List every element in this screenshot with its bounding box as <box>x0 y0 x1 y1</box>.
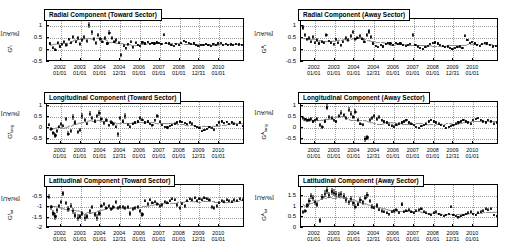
y-tick-label: -0.5 <box>18 135 42 141</box>
data-point <box>112 123 114 125</box>
data-point <box>65 202 67 204</box>
plot-frame <box>46 18 244 61</box>
x-tick-mark <box>159 224 160 227</box>
data-point <box>241 44 243 46</box>
y-tick-mark <box>46 49 49 50</box>
gridline-vertical <box>219 185 220 226</box>
data-point <box>90 31 92 33</box>
gridline-vertical <box>315 185 316 226</box>
data-point <box>319 219 321 221</box>
x-tick-mark <box>393 58 394 61</box>
data-point <box>93 213 95 215</box>
gridline-vertical <box>140 185 141 226</box>
y-axis-units: [%/AU] <box>255 31 274 37</box>
gridline-vertical <box>394 185 395 226</box>
y-tick-mark <box>300 49 303 50</box>
data-point <box>101 41 103 43</box>
data-point <box>484 121 486 123</box>
data-point <box>347 108 349 110</box>
x-tick-mark <box>159 141 160 144</box>
panel-title: Longitudinal Component (Toward Sector) <box>44 92 181 104</box>
data-point <box>103 122 105 124</box>
y-tick-label: 1 <box>18 102 42 108</box>
x-tick-date: 01/01 <box>457 236 487 242</box>
y-axis-units: [%/AU] <box>1 111 20 117</box>
panel-radial-away: GAr[%/AU]10.50-0.5200201/01200301/012004… <box>254 0 508 83</box>
plot-frame <box>300 184 498 227</box>
y-tick-label: 1 <box>18 22 42 28</box>
x-tick-mark <box>60 141 61 144</box>
gridline-vertical <box>434 19 435 60</box>
data-point <box>62 192 64 194</box>
data-point <box>363 41 365 43</box>
data-point <box>464 35 466 37</box>
y-axis-units: [%/AU] <box>1 32 20 38</box>
x-tick-mark <box>218 141 219 144</box>
plot-frame <box>46 184 244 227</box>
gridline-horizontal <box>301 26 497 27</box>
panel-latitudinal-toward: Gtlat[%/AU]-0.5-1-1.5-2200201/01200301/0… <box>0 166 254 249</box>
x-tick-mark <box>413 58 414 61</box>
gridline-vertical <box>453 185 454 226</box>
y-tick-label: 0 <box>18 124 42 130</box>
x-tick-mark <box>334 141 335 144</box>
data-point <box>149 199 151 201</box>
data-point <box>210 45 212 47</box>
y-tick-mark <box>46 61 49 62</box>
y-tick-mark <box>300 61 303 62</box>
x-tick-mark <box>452 58 453 61</box>
y-tick-mark <box>46 127 49 128</box>
data-point <box>206 128 208 130</box>
figure-canvas: Gtr[%/AU]10.50-0.5200201/01200301/012004… <box>0 0 508 250</box>
x-tick-mark <box>179 58 180 61</box>
data-point <box>340 44 342 46</box>
x-tick-mark <box>99 224 100 227</box>
y-tick-label: 0.5 <box>18 34 42 40</box>
x-tick-mark <box>393 141 394 144</box>
gridline-vertical <box>473 185 474 226</box>
data-point <box>304 34 306 36</box>
data-point <box>129 212 131 214</box>
data-point <box>357 203 359 205</box>
gridline-horizontal <box>47 26 243 27</box>
y-tick-mark <box>300 216 303 217</box>
y-axis-symbol: G <box>7 134 13 139</box>
y-axis-label: Gtlat[%/AU] <box>4 184 16 226</box>
y-axis-units: [%/AU] <box>255 195 274 201</box>
y-axis-label: GAlat[%/AU] <box>258 184 270 226</box>
data-point <box>242 125 244 127</box>
gridline-horizontal <box>301 207 497 208</box>
y-tick-mark <box>300 227 303 228</box>
panel-latitudinal-away: GAlat[%/AU]1.510.50200201/01200301/01200… <box>254 166 508 249</box>
x-tick-mark <box>60 58 61 61</box>
y-tick-label: 0.5 <box>18 113 42 119</box>
x-tick-mark <box>413 141 414 144</box>
data-point <box>304 210 306 212</box>
x-tick-mark <box>218 224 219 227</box>
y-axis-symbol: G <box>261 135 267 140</box>
x-tick-mark <box>472 224 473 227</box>
plot-frame <box>300 18 498 61</box>
gridline-horizontal <box>301 106 497 107</box>
data-point <box>487 209 489 211</box>
data-point <box>366 34 368 36</box>
data-point <box>193 196 195 198</box>
x-tick-date: 01/01 <box>457 153 487 159</box>
panel-title: Longitudinal Component (Away Sector) <box>298 92 430 104</box>
gridline-vertical <box>100 102 101 143</box>
gridline-horizontal <box>47 197 243 198</box>
x-tick-date: 01/01 <box>203 70 233 76</box>
x-tick-mark <box>373 58 374 61</box>
data-point <box>388 213 390 215</box>
y-tick-label: -0.5 <box>272 135 296 141</box>
x-tick-label: 201001/01 <box>203 64 233 76</box>
gridline-vertical <box>199 102 200 143</box>
data-point <box>68 38 70 40</box>
gridline-vertical <box>81 185 82 226</box>
y-tick-mark <box>46 138 49 139</box>
x-tick-mark <box>334 58 335 61</box>
x-tick-label: 201001/01 <box>457 147 487 159</box>
x-tick-mark <box>433 141 434 144</box>
y-tick-mark <box>300 195 303 196</box>
y-tick-label: 1 <box>272 102 296 108</box>
